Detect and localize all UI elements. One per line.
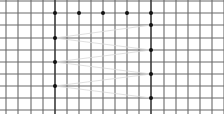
path-dot — [149, 96, 153, 100]
path-dot — [149, 48, 153, 52]
path-dot — [53, 60, 57, 64]
grid-lines — [0, 0, 224, 114]
path-dot — [101, 11, 105, 15]
path-dot — [125, 11, 129, 15]
path-dot — [149, 72, 153, 76]
grid-diagram — [0, 0, 224, 114]
path-dot — [149, 23, 153, 27]
path-dot — [53, 84, 57, 88]
path-dot — [149, 11, 153, 15]
path-dot — [53, 36, 57, 40]
path-dot — [53, 11, 57, 15]
path-dot — [77, 11, 81, 15]
